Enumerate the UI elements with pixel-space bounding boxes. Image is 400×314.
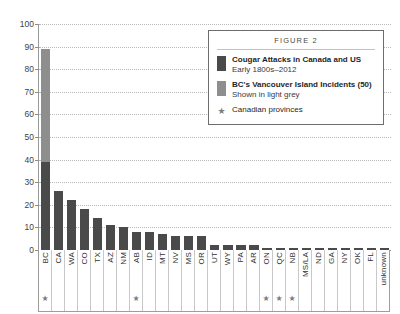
- x-label-cell-ms[interactable]: MS: [182, 250, 195, 311]
- bar-segment-dark: [41, 162, 50, 250]
- bar-segment-dark: [93, 218, 102, 250]
- bar-ab[interactable]: [132, 232, 141, 250]
- star-icon: ★: [260, 295, 272, 303]
- bar-slot-co[interactable]: [78, 24, 91, 250]
- x-tick-label-unknown: unknown: [379, 252, 388, 285]
- x-label-cell-nm[interactable]: NM: [117, 250, 130, 311]
- bar-ms[interactable]: [184, 236, 193, 250]
- x-tick-label-nd: ND: [314, 252, 323, 264]
- x-label-cell-ok[interactable]: OK: [351, 250, 364, 311]
- bar-segment-dark: [197, 236, 206, 250]
- star-icon: ★: [273, 295, 285, 303]
- x-tick-label-ar: AR: [249, 252, 258, 264]
- x-label-cell-ca[interactable]: CA: [52, 250, 65, 311]
- y-tick-label-20: 20: [10, 200, 34, 210]
- bar-slot-bc[interactable]: [39, 24, 52, 250]
- y-tick-label-80: 80: [10, 64, 34, 74]
- bar-slot-ab[interactable]: [130, 24, 143, 250]
- legend-entry-vancouver-island: BC's Vancouver Island Incidents (50) Sho…: [217, 80, 375, 100]
- legend-entry-title: Cougar Attacks in Canada and US: [232, 55, 361, 65]
- x-tick-label-nv: NV: [171, 252, 180, 264]
- legend-entry-text: Cougar Attacks in Canada and US Early 18…: [232, 55, 361, 75]
- legend-entry-text: Canadian provinces: [232, 105, 303, 115]
- x-label-cell-tx[interactable]: TX: [91, 250, 104, 311]
- bar-slot-nm[interactable]: [117, 24, 130, 250]
- y-tick-label-70: 70: [10, 87, 34, 97]
- x-tick-label-wa: WA: [67, 252, 76, 265]
- x-label-cell-ga[interactable]: GA: [325, 250, 338, 311]
- x-label-cell-ny[interactable]: NY: [338, 250, 351, 311]
- x-label-cell-wa[interactable]: WA: [65, 250, 78, 311]
- x-label-cell-mt[interactable]: MT: [156, 250, 169, 311]
- x-tick-label-ms: MS: [184, 252, 193, 264]
- bar-segment-dark: [54, 191, 63, 250]
- bar-id[interactable]: [145, 232, 154, 250]
- legend-title: FIGURE 2: [217, 36, 375, 50]
- bar-nm[interactable]: [119, 227, 128, 250]
- x-tick-label-az: AZ: [106, 252, 115, 263]
- chart-legend: FIGURE 2 Cougar Attacks in Canada and US…: [208, 30, 384, 125]
- bar-bc[interactable]: [41, 49, 50, 250]
- y-tick-label-10: 10: [10, 222, 34, 232]
- x-tick-label-pa: PA: [236, 252, 245, 262]
- bar-segment-dark: [106, 225, 115, 250]
- x-label-cell-unknown[interactable]: unknown: [377, 250, 389, 311]
- x-label-cell-ms-la[interactable]: MS/LA: [299, 250, 312, 311]
- bar-slot-az[interactable]: [104, 24, 117, 250]
- figure-2-chart: 0102030405060708090100 BC★CAWACOTXAZNMAB…: [0, 0, 400, 314]
- bar-slot-mt[interactable]: [156, 24, 169, 250]
- x-label-cell-pa[interactable]: PA: [234, 250, 247, 311]
- x-tick-label-ga: GA: [327, 252, 336, 264]
- x-label-cell-bc[interactable]: BC★: [39, 250, 52, 311]
- legend-entry-subtitle: Early 1800s–2012: [232, 65, 361, 75]
- bar-slot-wa[interactable]: [65, 24, 78, 250]
- y-tick-label-40: 40: [10, 155, 34, 165]
- bar-az[interactable]: [106, 225, 115, 250]
- bar-slot-nv[interactable]: [169, 24, 182, 250]
- bar-slot-or[interactable]: [195, 24, 208, 250]
- bar-slot-id[interactable]: [143, 24, 156, 250]
- x-label-cell-ab[interactable]: AB★: [130, 250, 143, 311]
- bar-segment-dark: [184, 236, 193, 250]
- bar-wa[interactable]: [67, 200, 76, 250]
- y-tick-label-60: 60: [10, 109, 34, 119]
- x-label-cell-co[interactable]: CO: [78, 250, 91, 311]
- x-tick-label-nm: NM: [119, 252, 128, 265]
- bar-slot-ca[interactable]: [52, 24, 65, 250]
- x-label-cell-ut[interactable]: UT: [208, 250, 221, 311]
- bar-tx[interactable]: [93, 218, 102, 250]
- bar-slot-tx[interactable]: [91, 24, 104, 250]
- x-label-cell-id[interactable]: ID: [143, 250, 156, 311]
- x-label-cell-on[interactable]: ON★: [260, 250, 273, 311]
- x-tick-label-id: ID: [145, 252, 154, 260]
- bar-segment-light: [41, 49, 50, 162]
- x-label-cell-az[interactable]: AZ: [104, 250, 117, 311]
- x-label-cell-fl[interactable]: FL: [364, 250, 377, 311]
- bar-slot-ms[interactable]: [182, 24, 195, 250]
- legend-entry-title: BC's Vancouver Island Incidents (50): [232, 80, 372, 90]
- y-tick-label-30: 30: [10, 177, 34, 187]
- x-label-cell-nd[interactable]: ND: [312, 250, 325, 311]
- star-icon: ★: [130, 295, 142, 303]
- bar-nv[interactable]: [171, 236, 180, 250]
- bar-ca[interactable]: [54, 191, 63, 250]
- x-tick-label-ny: NY: [340, 252, 349, 264]
- x-label-cell-qc[interactable]: QC★: [273, 250, 286, 311]
- bar-segment-dark: [145, 232, 154, 250]
- bar-co[interactable]: [80, 209, 89, 250]
- y-tick-label-100: 100: [10, 19, 34, 29]
- x-label-cell-nv[interactable]: NV: [169, 250, 182, 311]
- x-tick-label-tx: TX: [93, 252, 102, 263]
- star-icon: ★: [217, 106, 226, 117]
- x-tick-label-mt: MT: [158, 252, 167, 264]
- bar-mt[interactable]: [158, 234, 167, 250]
- x-label-cell-ar[interactable]: AR: [247, 250, 260, 311]
- bar-or[interactable]: [197, 236, 206, 250]
- y-tick-label-50: 50: [10, 132, 34, 142]
- x-label-cell-nb[interactable]: NB★: [286, 250, 299, 311]
- x-label-cell-wy[interactable]: WY: [221, 250, 234, 311]
- bar-segment-dark: [158, 234, 167, 250]
- x-tick-label-co: CO: [80, 252, 89, 264]
- y-tick-label-0: 0: [10, 245, 34, 255]
- x-label-cell-or[interactable]: OR: [195, 250, 208, 311]
